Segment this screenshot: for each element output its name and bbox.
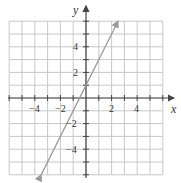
y-tick-label: 4 [73, 41, 78, 52]
y-tick-label: −4 [66, 144, 77, 155]
coordinate-plane: y x −4 −2 2 4 4 2 −2 −4 [0, 0, 181, 183]
x-axis-label: x [170, 102, 177, 116]
x-tick-label: −4 [29, 103, 40, 114]
y-axis-label: y [72, 3, 79, 17]
x-tick-label: 2 [109, 103, 114, 114]
x-tick-label: −2 [55, 103, 66, 114]
y-tick-label: −2 [66, 118, 77, 129]
x-tick-label: 4 [134, 103, 139, 114]
y-tick-label: 2 [73, 67, 78, 78]
